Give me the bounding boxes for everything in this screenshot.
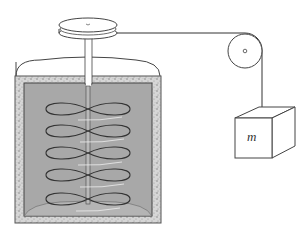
joule-apparatus-diagram: m (0, 0, 308, 238)
diagram-canvas (0, 0, 308, 238)
hanging-mass (235, 107, 295, 158)
side-pulley (228, 34, 262, 68)
top-pulley (59, 18, 117, 39)
mass-label: m (247, 129, 256, 145)
